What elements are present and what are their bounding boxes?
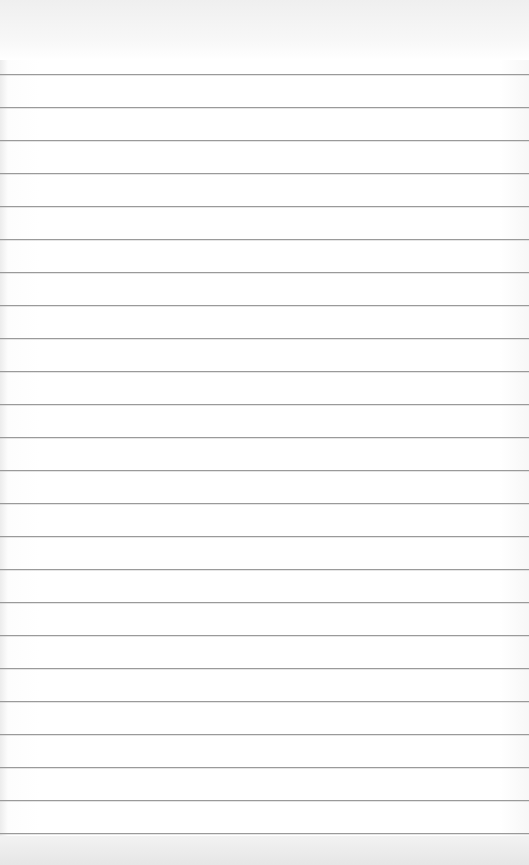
ruled-line — [0, 833, 529, 834]
ruled-line — [0, 107, 529, 108]
ruled-line — [0, 404, 529, 405]
ruled-line — [0, 140, 529, 141]
ruled-line — [0, 305, 529, 306]
ruled-line — [0, 470, 529, 471]
ruled-line — [0, 239, 529, 240]
ruled-line — [0, 74, 529, 75]
ruled-line — [0, 437, 529, 438]
ruled-line — [0, 602, 529, 603]
ruled-line — [0, 734, 529, 735]
ruled-line — [0, 569, 529, 570]
ruled-line — [0, 668, 529, 669]
bottom-margin-strip — [0, 836, 529, 865]
lined-paper — [0, 0, 529, 865]
ruled-line — [0, 503, 529, 504]
ruled-line — [0, 272, 529, 273]
ruled-line — [0, 767, 529, 768]
ruled-line — [0, 701, 529, 702]
ruled-line — [0, 800, 529, 801]
ruled-line — [0, 206, 529, 207]
ruled-line — [0, 371, 529, 372]
ruled-line — [0, 338, 529, 339]
ruled-line — [0, 536, 529, 537]
top-margin-strip — [0, 0, 529, 60]
ruled-line — [0, 173, 529, 174]
ruled-line — [0, 635, 529, 636]
